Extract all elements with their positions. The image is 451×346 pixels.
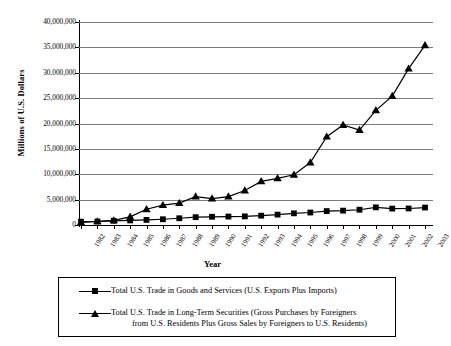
triangle-data-point [421, 41, 429, 48]
x-tick-label: 1998 [355, 233, 368, 249]
x-tick-label: 1994 [290, 233, 303, 249]
x-tick-label: 1983 [110, 233, 123, 249]
triangle-data-point [306, 158, 314, 165]
square-data-point [389, 206, 395, 212]
series-lines [79, 22, 433, 225]
triangle-data-point [191, 192, 199, 199]
square-data-point [144, 217, 150, 223]
x-tick-label: 1990 [224, 233, 237, 249]
y-tick-label: 20,000,000 [16, 120, 76, 127]
square-data-point [307, 210, 313, 216]
x-tick-label: 2003 [437, 233, 450, 249]
y-tick-mark [75, 73, 79, 74]
plot-area [79, 22, 433, 225]
y-axis-tick-labels: 40,000,00035,000,00030,000,00025,000,000… [14, 0, 76, 226]
triangle-data-point [241, 186, 249, 193]
y-tick-label: 10,000,000 [16, 170, 76, 177]
legend-label-long-term-securities: Total U.S. Trade in Long-Term Securities… [111, 307, 367, 329]
square-data-point [242, 213, 248, 219]
series-line [81, 45, 425, 222]
y-tick-mark [75, 174, 79, 175]
y-tick-label: 25,000,000 [16, 94, 76, 101]
square-data-point [373, 204, 379, 210]
square-data-point [275, 212, 281, 218]
square-marker-icon [92, 288, 98, 294]
chart-plot-region: Millions of U.S. Dollars 40,000,00035,00… [0, 0, 449, 280]
triangle-data-point [388, 92, 396, 99]
legend-label-line2: from U.S. Residents Plus Gross Sales by … [111, 318, 367, 329]
y-tick-mark [75, 22, 79, 23]
triangle-data-point [290, 170, 298, 177]
legend-item-long-term-securities: Total U.S. Trade in Long-Term Securities… [79, 307, 367, 329]
x-tick-label: 1984 [126, 233, 139, 249]
triangle-marker-icon [91, 310, 99, 317]
x-tick-label: 1982 [93, 233, 106, 249]
x-tick-label: 2001 [405, 233, 418, 249]
x-tick-label: 1989 [208, 233, 221, 249]
x-tick-label: 1997 [339, 233, 352, 249]
x-tick-label: 1991 [241, 233, 254, 249]
square-data-point [160, 216, 166, 222]
y-tick-label: 5,000,000 [16, 196, 76, 203]
x-tick-label: 1995 [306, 233, 319, 249]
square-data-point [291, 210, 297, 216]
legend-key-square [79, 286, 111, 296]
square-data-point [226, 214, 232, 220]
x-tick-label: 1999 [372, 233, 385, 249]
y-tick-label: 35,000,000 [16, 43, 76, 50]
square-data-point [324, 208, 330, 214]
y-tick-mark [75, 200, 79, 201]
y-tick-mark [75, 47, 79, 48]
x-axis-title-text: Year [204, 259, 221, 269]
y-tick-label: 40,000,000 [16, 18, 76, 25]
x-tick-label: 2002 [421, 233, 434, 249]
y-tick-label: 30,000,000 [16, 69, 76, 76]
square-data-point [176, 215, 182, 221]
square-data-point [193, 214, 199, 220]
triangle-data-point [339, 121, 347, 128]
x-tick-label: 1996 [323, 233, 336, 249]
legend-key-triangle [79, 308, 111, 318]
triangle-data-point [323, 132, 331, 139]
legend-label-goods-services: Total U.S. Trade in Goods and Services (… [111, 285, 337, 296]
y-tick-label: 15,000,000 [16, 145, 76, 152]
x-tick-label: 2000 [388, 233, 401, 249]
chart-legend: Total U.S. Trade in Goods and Services (… [58, 277, 396, 337]
x-axis-title: Year [0, 259, 449, 269]
x-tick-label: 1986 [159, 233, 172, 249]
x-tick-label: 1985 [143, 233, 156, 249]
legend-label-line1: Total U.S. Trade in Long-Term Securities… [111, 308, 356, 317]
triangle-data-point [126, 213, 134, 220]
x-tick-label: 1987 [175, 233, 188, 249]
y-tick-mark [75, 149, 79, 150]
y-tick-mark [75, 98, 79, 99]
square-data-point [422, 205, 428, 211]
x-tick-label: 1992 [257, 233, 270, 249]
square-data-point [258, 213, 264, 219]
x-tick-label: 1993 [274, 233, 287, 249]
legend-item-goods-services: Total U.S. Trade in Goods and Services (… [79, 285, 337, 296]
x-tick-label: 1988 [192, 233, 205, 249]
y-tick-mark [75, 124, 79, 125]
square-data-point [406, 206, 412, 212]
square-data-point [357, 207, 363, 213]
square-data-point [340, 208, 346, 214]
square-data-point [209, 214, 215, 220]
